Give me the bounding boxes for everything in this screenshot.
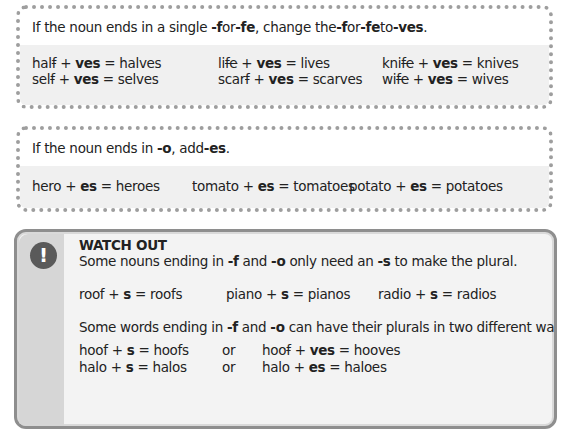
example-knife: knife + ves = knives xyxy=(382,55,518,71)
example-row: hero + es = heroes tomato + es = tomatoe… xyxy=(32,178,537,194)
watch-out-box: ! WATCH OUT Some nouns ending in -f and … xyxy=(14,229,557,429)
text: If the noun ends in a single xyxy=(32,19,207,35)
bold-text: -fe xyxy=(360,19,380,35)
example-wife: wife + ves = wives xyxy=(382,71,508,87)
example-radio: radio + s = radios xyxy=(378,286,496,302)
example-row: self + ves = selves scarf + ves = scarve… xyxy=(32,71,537,87)
example-half: half + ves = halves xyxy=(32,55,218,71)
example-piano: piano + s = pianos xyxy=(226,286,378,303)
bold-text: -f xyxy=(211,19,222,35)
bold-text: -fe xyxy=(235,19,255,35)
example-tomato: tomato + es = tomatoes xyxy=(192,178,349,194)
rule-box-f-fe: If the noun ends in a single -f or -fe, … xyxy=(16,5,553,109)
bold-text: -f xyxy=(336,19,347,35)
watch-out-title: WATCH OUT xyxy=(79,237,544,253)
exclamation-icon: ! xyxy=(30,242,57,269)
bold-text: -ves xyxy=(393,19,423,35)
example-self: self + ves = selves xyxy=(32,71,218,87)
example-life: life + ves = lives xyxy=(218,55,382,71)
examples-band: hero + es = heroes tomato + es = tomatoe… xyxy=(20,166,549,208)
example-potato: potato + es = potatoes xyxy=(349,178,503,194)
text: If the noun ends in xyxy=(32,140,153,156)
text: . xyxy=(423,19,427,35)
watch-out-line-1: Some nouns ending in -f and -o only need… xyxy=(79,253,544,270)
text: , add xyxy=(171,140,204,156)
example-row-hoof: hoof + s = hoofsorhoof + ves = hooves xyxy=(79,342,544,359)
text: or xyxy=(222,19,235,35)
bold-text: -es xyxy=(204,140,226,156)
text: or xyxy=(347,19,360,35)
rule-o-text: If the noun ends in -o, add -es. xyxy=(20,130,549,166)
rule-box-o: If the noun ends in -o, add -es. hero + … xyxy=(16,126,553,212)
examples-band: half + ves = halves life + ves = lives k… xyxy=(20,45,549,105)
rule-f-fe-text: If the noun ends in a single -f or -fe, … xyxy=(20,9,549,45)
watch-out-line-2: Some words ending in -f and -o can have … xyxy=(79,319,544,336)
text: . xyxy=(226,140,230,156)
example-row: half + ves = halves life + ves = lives k… xyxy=(32,55,537,71)
example-row: roof + s = roofspiano + s = pianosradio … xyxy=(79,286,544,303)
text: to xyxy=(380,19,393,35)
text: , change the xyxy=(255,19,336,35)
example-scarf: scarf + ves = scarves xyxy=(218,71,382,87)
example-hero: hero + es = heroes xyxy=(32,178,192,194)
example-row-halo: halo + s = halosorhalo + es = haloes xyxy=(79,359,544,376)
example-roof: roof + s = roofs xyxy=(79,286,226,303)
bold-text: -o xyxy=(157,140,171,156)
watch-out-side-strip: ! xyxy=(19,234,64,426)
watch-out-content: WATCH OUT Some nouns ending in -f and -o… xyxy=(79,237,544,376)
